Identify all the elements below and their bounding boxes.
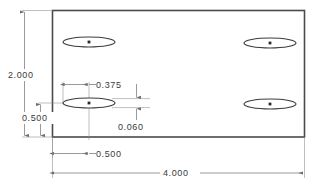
- technical-drawing: 2.000 0.500 0.375: [0, 0, 315, 183]
- slot-top-right-center-mark: [269, 42, 272, 45]
- dimension-slot-center-offset: 0.500: [53, 137, 122, 159]
- slot-bottom-left: [63, 98, 115, 108]
- dim-label-slot-center-height: 0.500: [22, 113, 48, 123]
- slot-top-right: [244, 38, 296, 48]
- slot-bottom-right: [244, 99, 296, 109]
- slot-bottom-left-center-mark: [88, 102, 91, 105]
- dimension-overall-width: 4.000: [53, 137, 305, 178]
- dim-label-overall-height: 2.000: [8, 70, 34, 80]
- engineering-drawing-canvas: 2.000 0.500 0.375: [0, 0, 315, 183]
- plate-rectangle: [53, 11, 305, 138]
- dim-label-slot-length: 0.375: [96, 80, 122, 90]
- dim-label-slot-width: 0.060: [118, 122, 144, 132]
- slot-top-left: [63, 37, 115, 47]
- dim-label-overall-width: 4.000: [163, 168, 189, 178]
- slot-bottom-right-center-mark: [269, 103, 272, 106]
- slot-top-left-center-mark: [88, 41, 91, 44]
- dim-label-slot-center-offset: 0.500: [96, 149, 122, 159]
- plate-outline: [53, 11, 305, 138]
